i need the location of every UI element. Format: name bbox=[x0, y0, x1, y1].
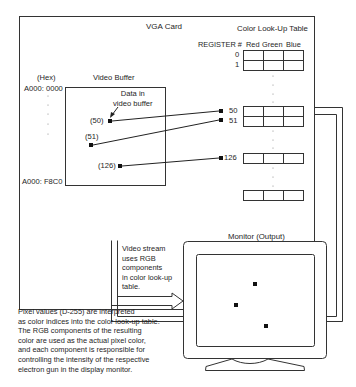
register-51: 51 bbox=[229, 117, 237, 125]
pixel-label-126: (126) bbox=[98, 162, 116, 170]
register-marker-126 bbox=[219, 156, 223, 160]
address-header: (Hex) bbox=[37, 74, 56, 82]
buffer-annotation: Data in video buffer bbox=[113, 89, 153, 109]
register-0: 0 bbox=[235, 51, 239, 59]
clut-rows-top bbox=[244, 51, 304, 71]
screen-pixel-3 bbox=[264, 324, 268, 328]
screen-pixel-1 bbox=[253, 282, 257, 286]
clut-title: Color Look-Up Table bbox=[237, 25, 308, 33]
register-50: 50 bbox=[229, 107, 237, 115]
monitor-stand bbox=[206, 359, 305, 371]
clut-ellipsis bbox=[272, 75, 273, 186]
clut-col-green: Green bbox=[262, 41, 283, 48]
clut-col-blue: Blue bbox=[286, 41, 301, 48]
address-start: A000: 0000 bbox=[24, 85, 63, 93]
register-1: 1 bbox=[235, 61, 239, 69]
pixel-marker-51 bbox=[89, 143, 93, 147]
video-stream-caption: Video stream uses RGB components in colo… bbox=[122, 244, 172, 292]
monitor-screen bbox=[197, 255, 315, 347]
pixel-marker-50 bbox=[108, 119, 112, 123]
clut-col-red: Red bbox=[246, 41, 260, 48]
monitor-title: Monitor (Output) bbox=[228, 233, 285, 241]
annotation-arrowhead bbox=[110, 112, 115, 118]
register-126: 126 bbox=[224, 154, 237, 162]
address-end: A000: F8C0 bbox=[22, 178, 63, 186]
clut-rows-50-51 bbox=[244, 107, 304, 127]
register-marker-51 bbox=[219, 118, 223, 122]
pixel-marker-126 bbox=[118, 164, 122, 168]
register-marker-50 bbox=[219, 109, 223, 113]
register-header: REGISTER # bbox=[198, 41, 242, 48]
description-text: Pixel values (D-255) are interpreted as … bbox=[18, 307, 160, 374]
video-buffer-title: Video Buffer bbox=[93, 74, 135, 82]
clut-row-last bbox=[244, 191, 304, 201]
vga-card-title: VGA Card bbox=[146, 23, 182, 31]
pixel-label-50: (50) bbox=[90, 117, 104, 125]
clut-row-126 bbox=[244, 154, 304, 164]
screen-pixel-2 bbox=[234, 303, 238, 307]
pixel-label-51: (51) bbox=[85, 133, 99, 141]
address-ellipsis bbox=[47, 95, 48, 134]
